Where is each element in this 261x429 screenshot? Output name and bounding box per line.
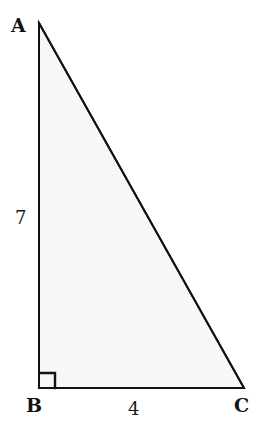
side-length-label-bc: 4 — [128, 400, 139, 418]
diagram-canvas: A B C 7 4 — [0, 0, 261, 429]
side-length-label-ab: 7 — [15, 209, 26, 227]
vertex-label-b: B — [26, 396, 42, 415]
vertex-label-a: A — [11, 16, 26, 35]
vertex-label-c: C — [234, 396, 249, 415]
triangle-figure — [0, 0, 261, 429]
